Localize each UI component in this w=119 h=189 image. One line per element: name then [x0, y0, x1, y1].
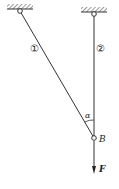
joint-b: [92, 136, 97, 141]
pin-left: [18, 9, 23, 14]
truss-diagram: ① ② α B F: [0, 0, 119, 189]
pin-right: [92, 12, 97, 17]
bar-2-label: ②: [96, 43, 105, 54]
force-label: F: [98, 164, 106, 174]
joint-label: B: [98, 134, 106, 144]
arrow-head-icon: [92, 166, 96, 174]
bar-1: [20, 11, 94, 138]
angle-arc: [85, 120, 94, 122]
bar-1-label: ①: [30, 43, 39, 54]
angle-label: α: [85, 111, 91, 120]
